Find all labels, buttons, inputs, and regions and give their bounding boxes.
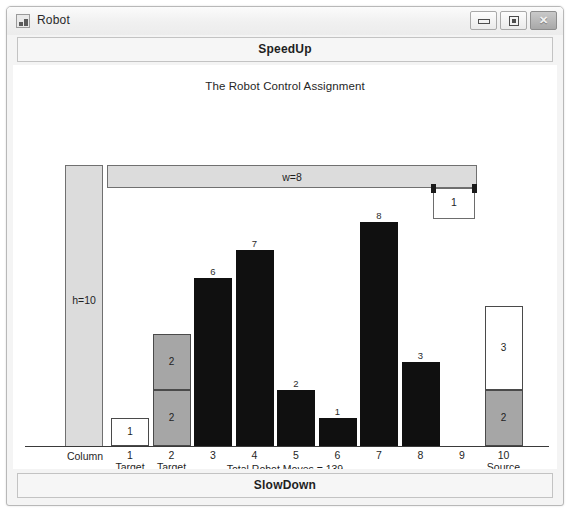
window-title: Robot <box>37 13 70 27</box>
slowdown-button[interactable]: SlowDown <box>17 473 553 498</box>
title-bar[interactable]: Robot ✕ <box>7 7 563 35</box>
bar-value-label: 1 <box>319 406 357 417</box>
minimize-icon <box>478 19 490 24</box>
bar-segment-label: 2 <box>154 356 190 367</box>
maximize-icon <box>509 16 519 26</box>
bar-plot: 11TargetOdd222TargetEven6374251687389321… <box>13 65 557 469</box>
bar-segment <box>194 278 232 446</box>
bar-segment <box>360 222 398 446</box>
close-icon: ✕ <box>531 12 556 29</box>
bar-column-1: 1 <box>111 418 149 446</box>
bar-segment: 2 <box>153 334 191 390</box>
bar-segment: 1 <box>111 418 149 446</box>
bar-value-label: 2 <box>277 378 315 389</box>
robot-icon <box>16 14 30 28</box>
robot-application-window: Robot ✕ SpeedUp The Robot Control Assign… <box>6 6 564 506</box>
minimize-button[interactable] <box>470 11 497 30</box>
bar-column-4 <box>236 250 274 446</box>
bar-value-label: 3 <box>402 350 440 361</box>
bar-segment: 2 <box>153 390 191 446</box>
bar-segment: 2 <box>485 390 523 446</box>
bar-column-2: 22 <box>153 334 191 446</box>
bar-segment-label: 2 <box>486 412 522 423</box>
bar-segment-label: 3 <box>486 342 522 353</box>
bar-value-label: 7 <box>236 238 274 249</box>
x-tick-number: 10 <box>479 450 529 462</box>
x-axis-line <box>25 446 549 447</box>
bar-column-8 <box>402 362 440 446</box>
bar-segment-label: 2 <box>154 412 190 423</box>
bar-column-5 <box>277 390 315 446</box>
close-button[interactable]: ✕ <box>530 11 557 30</box>
bar-column-10: 32 <box>485 306 523 446</box>
maximize-button[interactable] <box>500 11 527 30</box>
bar-value-label: 8 <box>360 210 398 221</box>
bar-segment <box>319 418 357 446</box>
bar-segment-label: 1 <box>112 426 148 437</box>
column-axis-label: Column <box>57 450 113 462</box>
total-moves-label: Total Robot Moves = 139 <box>13 463 557 469</box>
bar-segment <box>402 362 440 446</box>
bar-column-3 <box>194 278 232 446</box>
bar-column-7 <box>360 222 398 446</box>
bar-segment <box>236 250 274 446</box>
bar-segment <box>277 390 315 446</box>
bar-segment: 3 <box>485 306 523 390</box>
bar-column-6 <box>319 418 357 446</box>
robot-canvas: The Robot Control Assignment h=10 w=8 1 … <box>13 65 557 469</box>
window-controls: ✕ <box>470 11 557 30</box>
bar-value-label: 6 <box>194 266 232 277</box>
speedup-button[interactable]: SpeedUp <box>17 37 553 62</box>
